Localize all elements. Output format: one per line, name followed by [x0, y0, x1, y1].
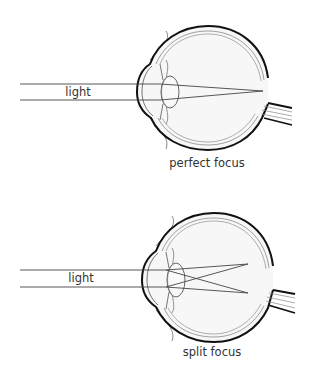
caption-split-focus: split focus: [183, 345, 242, 359]
eyeball-outline: [142, 213, 273, 342]
optic-nerve-top: [268, 103, 292, 108]
eyeball-outline: [137, 26, 268, 150]
light-label: light: [68, 271, 94, 285]
light-label: light: [65, 85, 91, 99]
caption-perfect-focus: perfect focus: [169, 156, 244, 170]
eye-split-focus: light split focus: [20, 213, 295, 359]
eye-focus-diagram: light perfect focus light split focus: [0, 0, 314, 375]
eye-perfect-focus: light perfect focus: [20, 26, 292, 170]
optic-nerve-top: [273, 290, 295, 294]
optic-nerve-bottom: [268, 305, 295, 313]
